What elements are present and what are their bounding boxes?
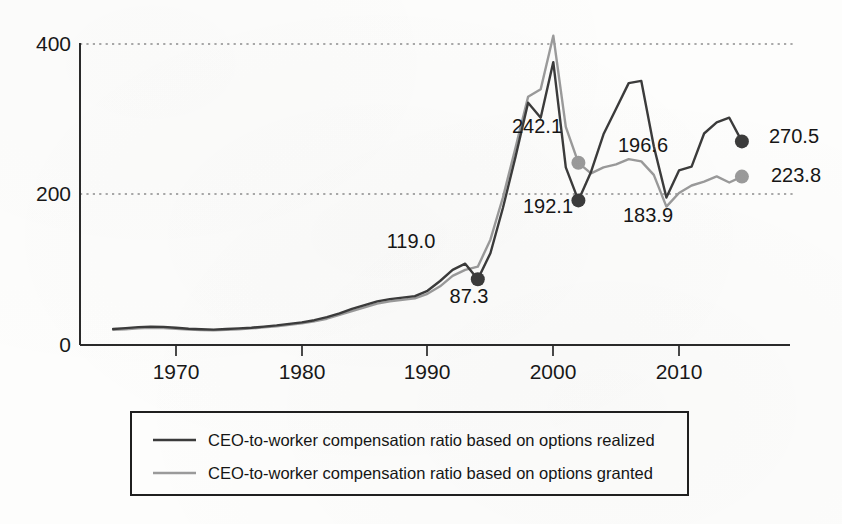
- x-axis-label-1980: 1980: [279, 360, 326, 383]
- y-axis-label-200: 200: [36, 182, 71, 205]
- value-label-196: 196.6: [618, 134, 668, 156]
- data-point-marker-242-1: [571, 156, 585, 170]
- y-axis-label-0: 0: [59, 333, 71, 356]
- x-axis-label-2000: 2000: [530, 360, 577, 383]
- line-chart: 400 200 0 1970 1980 1990 2000 2010 119.0…: [0, 0, 842, 524]
- value-label-270: 270.5: [769, 125, 819, 147]
- value-label-192: 192.1: [523, 195, 573, 217]
- legend: CEO-to-worker compensation ratio based o…: [131, 412, 688, 495]
- value-label-87: 87.3: [450, 285, 489, 307]
- data-point-marker-192-1: [571, 193, 585, 207]
- legend-label-options-realized: CEO-to-worker compensation ratio based o…: [208, 431, 655, 449]
- axes: [80, 43, 790, 356]
- x-axis-label-1990: 1990: [404, 360, 451, 383]
- series-line-options-realized: [113, 62, 742, 330]
- value-label-223: 223.8: [771, 164, 821, 186]
- y-axis-label-400: 400: [36, 32, 71, 55]
- chart-figure: 400 200 0 1970 1980 1990 2000 2010 119.0…: [0, 0, 842, 524]
- series-line-options-granted: [113, 36, 742, 331]
- data-point-marker-270-5: [735, 134, 749, 148]
- value-label-242: 242.1: [512, 115, 562, 137]
- gridlines: [80, 44, 793, 194]
- legend-label-options-granted: CEO-to-worker compensation ratio based o…: [208, 464, 653, 482]
- x-axis-label-2010: 2010: [656, 360, 703, 383]
- legend-box: [131, 412, 688, 495]
- x-axis-label-1970: 1970: [153, 360, 200, 383]
- data-point-marker-223-8: [735, 170, 749, 184]
- value-label-119: 119.0: [387, 230, 436, 252]
- value-label-183: 183.9: [623, 204, 673, 226]
